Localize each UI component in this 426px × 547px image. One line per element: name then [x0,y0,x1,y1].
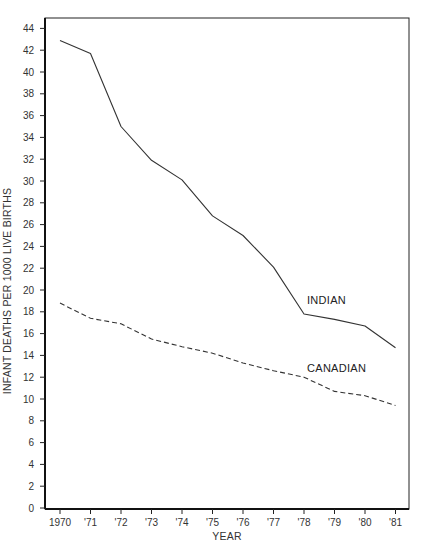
x-tick-label: '75 [206,517,219,528]
x-tick-label: '77 [267,517,280,528]
y-tick-label: 22 [23,263,35,274]
y-tick-label: 42 [23,45,35,56]
y-tick-label: 36 [23,110,35,121]
y-tick-label: 34 [23,132,35,143]
canadian-line [60,303,396,405]
y-tick-label: 28 [23,197,35,208]
x-tick-label: '72 [114,517,127,528]
y-tick-label: 30 [23,176,35,187]
y-tick-label: 32 [23,154,35,165]
line-chart: 0246810121416182022242628303234363840424… [0,0,426,547]
y-tick-label: 0 [28,503,34,514]
y-tick-label: 38 [23,88,35,99]
x-tick-label: '71 [84,517,97,528]
y-axis-ticks: 0246810121416182022242628303234363840424… [23,23,45,514]
x-tick-label: 1970 [49,517,72,528]
y-axis-title: INFANT DEATHS PER 1000 LIVE BIRTHS [1,188,13,394]
x-tick-label: '81 [389,517,402,528]
x-tick-label: '80 [358,517,371,528]
plot-frame [45,18,409,509]
y-tick-label: 20 [23,285,35,296]
x-axis-ticks: 1970'71'72'73'74'75'76'77'78'79'80'81 [49,509,403,528]
y-tick-label: 2 [28,481,34,492]
data-series: INDIANCANADIAN [60,40,396,405]
y-tick-label: 8 [28,415,34,426]
y-tick-label: 10 [23,394,35,405]
canadian-series-label: CANADIAN [307,362,366,374]
x-axis-title: YEAR [212,530,242,542]
x-tick-label: '74 [175,517,188,528]
x-tick-label: '73 [145,517,158,528]
y-tick-label: 26 [23,219,35,230]
y-tick-label: 44 [23,23,35,34]
x-tick-label: '76 [236,517,249,528]
y-tick-label: 40 [23,67,35,78]
y-tick-label: 12 [23,372,35,383]
x-tick-label: '79 [328,517,341,528]
y-tick-label: 6 [28,437,34,448]
x-tick-label: '78 [297,517,310,528]
y-tick-label: 24 [23,241,35,252]
indian-series-label: INDIAN [307,294,346,306]
y-tick-label: 18 [23,306,35,317]
y-tick-label: 4 [28,459,34,470]
y-tick-label: 16 [23,328,35,339]
y-tick-label: 14 [23,350,35,361]
